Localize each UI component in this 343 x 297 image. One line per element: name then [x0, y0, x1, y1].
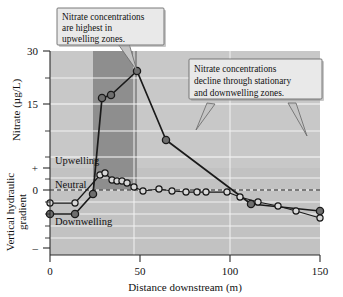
y-axis-title-nitrate: Nitrate (µg/L): [10, 79, 23, 142]
zone-label-upwelling: Upwelling: [55, 155, 100, 166]
zone-label-neutral: Neutral: [55, 179, 87, 190]
y-tick-nitrate-15: 15: [27, 98, 39, 110]
y-tick-gradient-zero: 0: [33, 184, 39, 196]
nitrate-gradient-figure: Upwelling Neutral Downwelling: [0, 0, 343, 297]
callout-decline-line3: and downwelling zones.: [194, 88, 284, 98]
x-tick-100: 100: [222, 265, 239, 277]
x-axis-title: Distance downstream (m): [128, 281, 242, 294]
callout-upwelling-line1: Nitrate concentrations: [62, 12, 145, 22]
callout-upwelling-line2: are highest in: [62, 23, 112, 33]
x-tick-150: 150: [312, 265, 329, 277]
zone-label-downwelling: Downwelling: [55, 216, 113, 227]
callout-decline-line1: Nitrate concentrations: [194, 64, 277, 74]
x-tick-50: 50: [135, 265, 147, 277]
y-axis-title-gradient-line2: gradient: [16, 194, 28, 230]
chart-svg: Upwelling Neutral Downwelling: [0, 0, 343, 297]
y-tick-gradient-minus: –: [32, 242, 39, 254]
y-tick-gradient-plus: +: [32, 162, 38, 174]
callout-decline-line2: decline through stationary: [194, 76, 291, 86]
y-tick-nitrate-30: 30: [27, 45, 39, 57]
y-axis-title-gradient-line1: Vertical hydraulic: [4, 173, 16, 252]
callout-upwelling-line3: upwelling zones.: [62, 34, 125, 44]
x-tick-0: 0: [47, 265, 53, 277]
